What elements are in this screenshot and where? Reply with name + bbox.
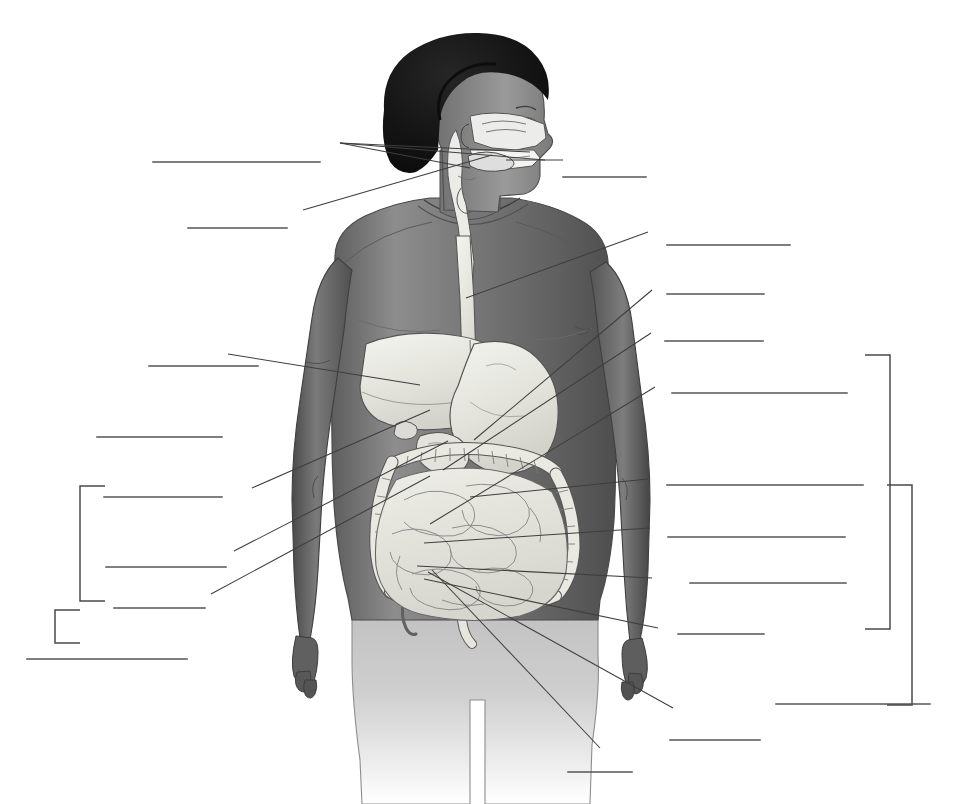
digestive-system-figure xyxy=(0,0,958,804)
left-outer-bracket xyxy=(55,610,80,643)
small-intestine xyxy=(375,468,567,621)
right-inner-bracket xyxy=(865,355,890,629)
left-inner-bracket xyxy=(80,486,105,601)
worksheet-page xyxy=(0,0,958,804)
